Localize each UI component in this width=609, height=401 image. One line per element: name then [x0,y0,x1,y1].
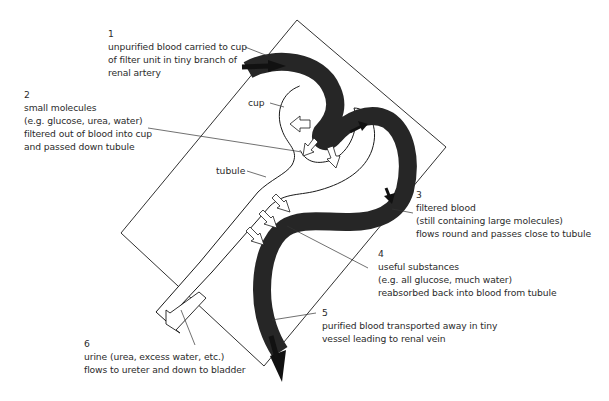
step-number: 5 [322,306,497,319]
leader-line-1 [245,47,268,56]
reabsorption-arrow-3 [246,227,264,245]
leader-line-2 [148,128,302,152]
leader-line-5 [272,313,316,320]
cup-label: cup [248,97,265,108]
step-text-line: purified blood transported away in tiny [322,319,497,332]
step-number: 2 [24,88,152,101]
step-text-line: flows round and passes close to tubule [416,227,591,240]
step-1-annotation: 1 unpurified blood carried to cup of fil… [108,27,247,79]
reabsorption-arrow-2 [259,210,277,228]
step-text-line: vessel leading to renal vein [322,332,497,345]
step-text-line: (still containing large molecules) [416,214,591,227]
leader-line-tubule [247,171,266,177]
step-6-annotation: 6 urine (urea, excess water, etc.) flows… [84,337,245,376]
step-5-annotation: 5 purified blood transported away in tin… [322,306,497,345]
step-number: 6 [84,337,245,350]
step-text-line: filtered blood [416,201,591,214]
nephron-diagram: cup tubule 1 unpurified blood carried to… [0,0,609,401]
step-text-line: reabsorbed back into blood from tubule [378,286,557,299]
step-text-line: renal artery [108,66,247,79]
step-2-annotation: 2 small molecules (e.g. glucose, urea, w… [24,88,152,153]
step-text-line: small molecules [24,101,152,114]
step-3-annotation: 3 filtered blood (still containing large… [416,188,591,240]
step-text-line: useful substances [378,260,557,273]
step-text-line: and passed down tubule [24,140,152,153]
step-number: 4 [378,247,557,260]
step-text-line: unpurified blood carried to cup [108,40,247,53]
leader-line-4 [287,226,368,268]
step-number: 3 [416,188,591,201]
step-text-line: (e.g. all glucose, much water) [378,273,557,286]
step-4-annotation: 4 useful substances (e.g. all glucose, m… [378,247,557,299]
step-text-line: flows to ureter and down to bladder [84,363,245,376]
step-text-line: filtered out of blood into cup [24,127,152,140]
tubule-label: tubule [216,165,245,176]
step-text-line: of filter unit in tiny branch of [108,53,247,66]
step-text-line: (e.g. glucose, urea, water) [24,114,152,127]
step-number: 1 [108,27,247,40]
step-text-line: urine (urea, excess water, etc.) [84,350,245,363]
